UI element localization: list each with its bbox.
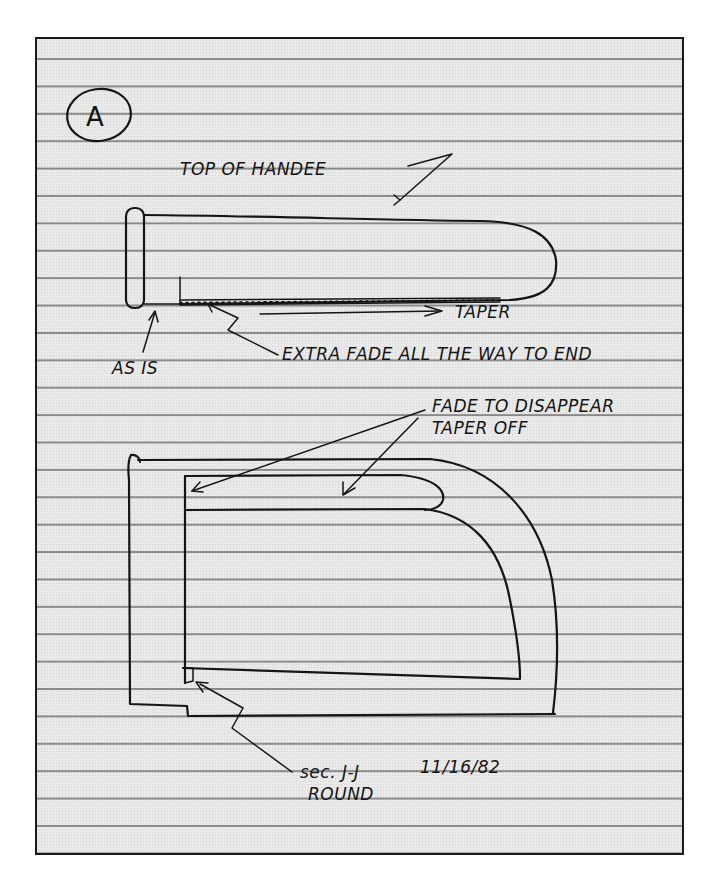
taper-off-label: TAPER OFF — [432, 418, 528, 438]
section-jj-callout: sec. J-J 11/16/82 ROUND — [196, 682, 500, 804]
handle-end-cap — [126, 208, 144, 308]
date-label: 11/16/82 — [420, 757, 500, 777]
extra-fade-label: EXTRA FADE ALL THE WAY TO END — [282, 344, 592, 364]
top-of-handle-callout: TOP OF HANDEE — [180, 154, 452, 205]
section-marker-circled-a: A — [64, 85, 135, 145]
top-of-handle-arrow-icon — [400, 154, 452, 200]
taper-callout: TAPER — [260, 302, 511, 322]
top-of-handle-label: TOP OF HANDEE — [180, 159, 326, 179]
top-view-handle — [126, 208, 556, 308]
round-label: ROUND — [308, 784, 374, 804]
fade-to-disappear-label: FADE TO DISAPPEAR — [432, 396, 615, 416]
handle-sketch-drawing: A TOP OF HANDEE TAPER AS IS EXTRA FADE A… — [0, 0, 715, 894]
section-marker-label: A — [86, 102, 104, 132]
section-jj-label: sec. J-J — [300, 762, 360, 782]
taper-label: TAPER — [455, 302, 511, 322]
as-is-label: AS IS — [111, 358, 158, 378]
extra-fade-callout: EXTRA FADE ALL THE WAY TO END — [208, 304, 592, 364]
as-is-callout: AS IS — [111, 311, 158, 378]
fade-to-disappear-callout: FADE TO DISAPPEAR TAPER OFF — [192, 396, 615, 495]
